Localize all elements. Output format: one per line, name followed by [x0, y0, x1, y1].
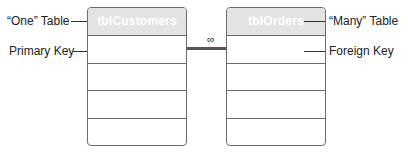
- table-header-tblorders: tblOrders: [227, 8, 325, 36]
- many-table-orders: tblOrders: [226, 7, 326, 146]
- table-row: [88, 64, 186, 92]
- table-row-primary-key: [88, 36, 186, 64]
- table-row: [88, 119, 186, 147]
- table-row: [227, 119, 325, 147]
- primary-key-label: Primary Key: [9, 44, 74, 58]
- many-table-leader-line: [304, 21, 325, 22]
- one-table-customers: tblCustomers: [87, 7, 187, 146]
- foreign-key-leader-line: [304, 51, 325, 52]
- table-row: [227, 64, 325, 92]
- one-table-label: “One” Table: [7, 14, 69, 28]
- table-row: [227, 91, 325, 119]
- foreign-key-label: Foreign Key: [329, 44, 394, 58]
- table-row: [88, 91, 186, 119]
- relationship-line: [187, 47, 226, 50]
- many-infinity-symbol: ∞: [207, 33, 215, 45]
- table-header-tblcustomers: tblCustomers: [88, 8, 186, 36]
- many-table-label: “Many” Table: [329, 14, 398, 28]
- table-row-foreign-key: [227, 36, 325, 64]
